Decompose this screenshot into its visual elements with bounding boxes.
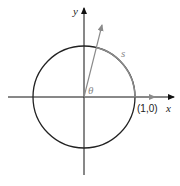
unit-circle-diagram: y x s θ (1,0) [0,0,180,186]
angle-label: θ [88,84,94,96]
x-axis-label: x [165,102,171,114]
y-axis-label: y [72,5,78,17]
point-label: (1,0) [137,103,158,114]
arc-s [97,48,136,97]
arc-label: s [121,47,125,59]
